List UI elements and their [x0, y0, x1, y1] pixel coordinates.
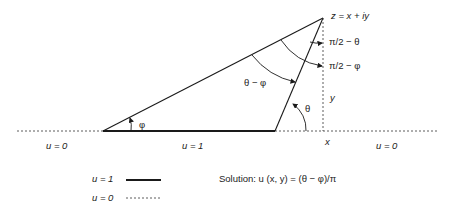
ray-from-left	[103, 18, 323, 131]
x-label: x	[324, 136, 331, 147]
theta-minus-phi-label: θ − φ	[244, 77, 266, 88]
phi-label: φ	[139, 119, 145, 130]
legend-dashed-label: u = 0	[92, 192, 114, 203]
apex-label: z = x + iy	[330, 10, 370, 21]
solution-formula: Solution: u (x, y) = (θ − φ)/π	[219, 173, 337, 184]
phi-angle-arc	[130, 118, 131, 131]
conformal-diagram: z = x + iy π/2 − θ π/2 − φ θ − φ θ φ y x…	[0, 0, 452, 206]
u1-mid-label: u = 1	[182, 140, 203, 151]
pi2-minus-phi-arc	[281, 40, 322, 66]
u0-left-label: u = 0	[46, 140, 68, 151]
y-label: y	[329, 92, 336, 103]
theta-label: θ	[305, 103, 310, 114]
legend-solid-label: u = 1	[92, 173, 113, 184]
ray-from-right	[275, 18, 323, 131]
pi2-minus-theta-label: π/2 − θ	[329, 36, 360, 47]
u0-right-label: u = 0	[376, 140, 398, 151]
pi2-minus-phi-label: π/2 − φ	[329, 60, 360, 71]
